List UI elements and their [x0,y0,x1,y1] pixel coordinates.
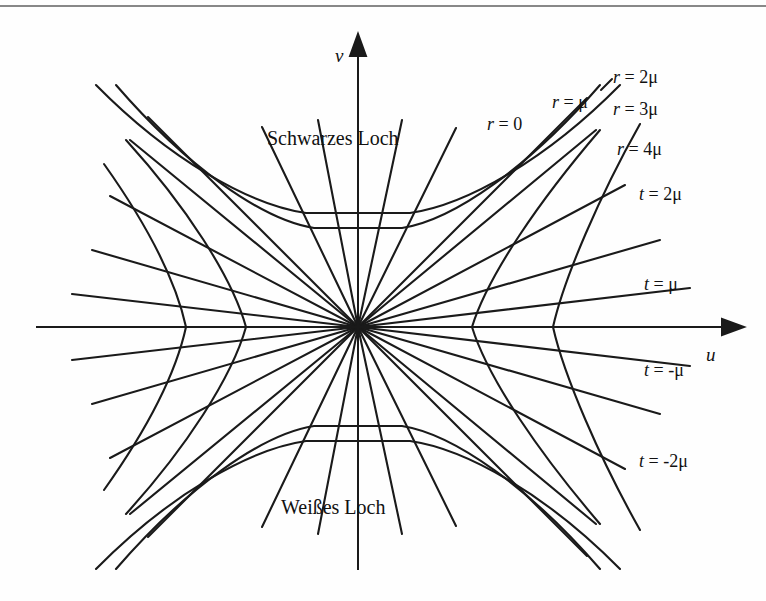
u-axis-arrowhead [722,319,744,335]
ray-t-neg-mu-right [358,327,690,366]
curve-label-t-neg-mu: t = -μ [644,361,684,379]
curve-label-r-4mu: r = 4μ [617,140,662,158]
region-label-white-hole: Weißes Loch [281,497,385,517]
ray-r4mu-right-upper [358,185,625,327]
ray-steep-up-left-b [318,120,358,327]
v-axis-arrowhead [350,34,366,56]
curve-label-r-3mu-var: r [613,99,620,119]
curve-label-r-4mu-var: r [617,139,624,159]
curve-label-r-mu-eq: = μ [559,92,588,112]
v-axis-label: v [335,46,343,65]
ray-t-mu-left [72,294,358,327]
curve-label-r-0-eq: = 0 [494,114,522,134]
ray-t-mu-right [358,288,690,327]
u-axis-label: u [706,345,716,364]
curve-label-r-4mu-eq: = 4μ [624,139,662,159]
curve-label-r-3mu: r = 3μ [613,100,658,118]
curve-label-r-2mu-eq: = 2μ [620,67,658,87]
curve-label-r-mu-var: r [552,92,559,112]
curve-label-r-3mu-eq: = 3μ [620,99,658,119]
curve-label-r-0: r = 0 [487,115,522,133]
ray-r4mu-right-lower [358,327,625,469]
figure-page: v u Schwarzes Loch Weißes Loch r = 0 r =… [0,0,766,601]
curve-label-t-mu: t = μ [644,275,678,293]
ray-r3mu-left-upper [130,140,358,327]
curve-label-r-0-var: r [487,114,494,134]
ray-r3mu-left-lower [130,327,358,514]
curve-label-r-2mu-var: r [613,67,620,87]
ray-t-neg-mu-left [72,327,358,360]
curve-label-t-mu-eq: = μ [649,274,678,294]
curve-label-r-mu: r = μ [552,93,588,111]
curve-label-t-neg-2mu: t = -2μ [639,452,688,470]
curve-label-t-2mu-eq: = 2μ [644,184,682,204]
leader-r2mu [601,79,612,90]
ray-r4mu-left-lower [110,327,358,458]
curve-label-t-neg-2mu-eq: = -2μ [644,451,688,471]
ray-r4mu-left-upper [110,196,358,327]
curve-label-t-neg-mu-eq: = -μ [649,360,684,380]
curve-label-r-2mu: r = 2μ [613,68,658,86]
region-label-black-hole: Schwarzes Loch [267,128,399,148]
curve-label-t-2mu: t = 2μ [639,185,682,203]
label-leader-lines [601,79,612,90]
